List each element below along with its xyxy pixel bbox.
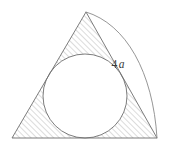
side-measure-label: 4a bbox=[112, 58, 125, 70]
figure-canvas: 4a bbox=[0, 0, 169, 153]
side-measure-number: 4 bbox=[112, 58, 118, 70]
hatched-region bbox=[0, 0, 169, 153]
geometry-figure: 4a bbox=[0, 0, 169, 153]
side-measure-symbol: a bbox=[119, 58, 125, 70]
